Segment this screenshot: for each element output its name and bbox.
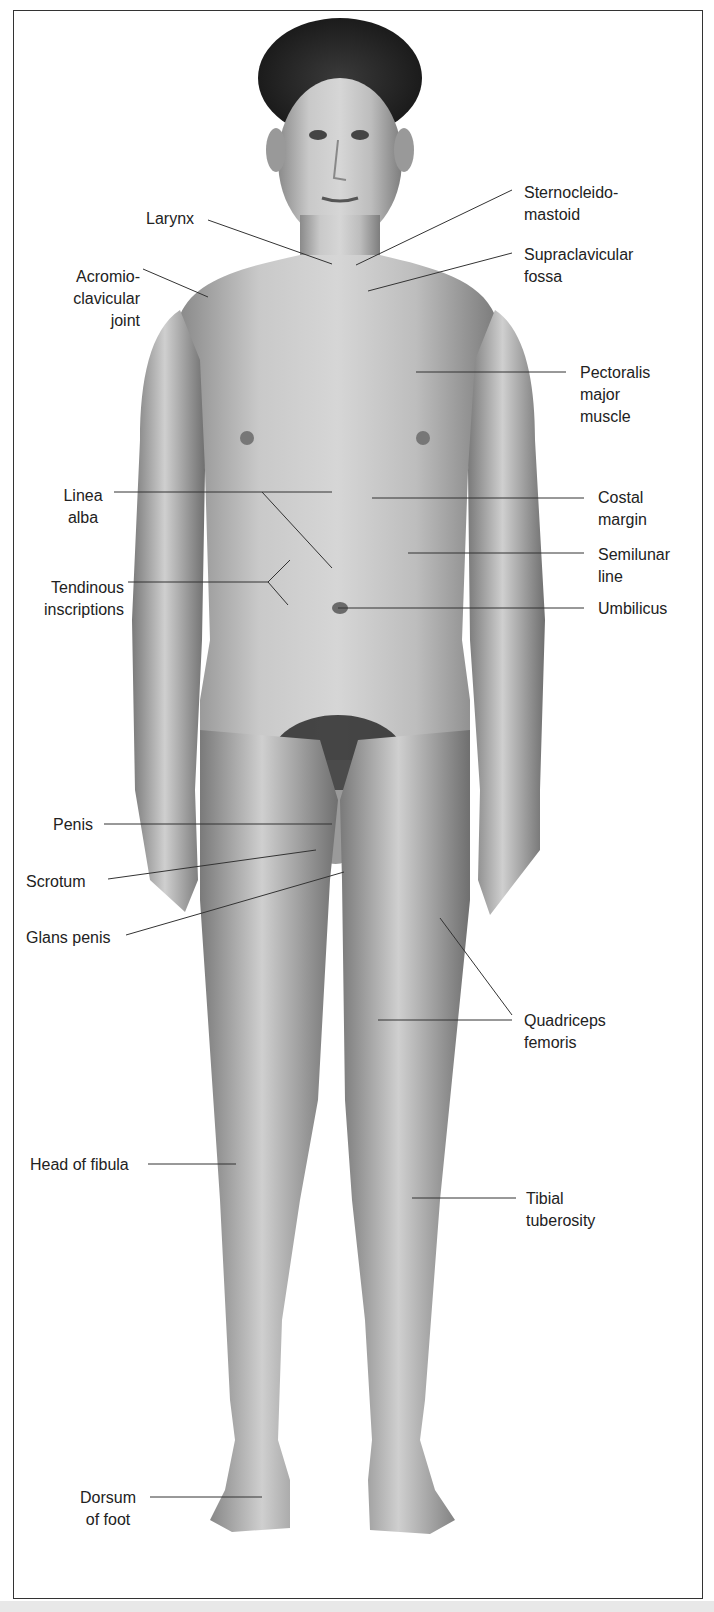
label-penis: Penis: [53, 814, 93, 836]
label-costal-margin: Costal margin: [598, 487, 647, 531]
neck: [300, 215, 380, 262]
label-acromioclavicular-joint: Acromio- clavicular joint: [46, 266, 140, 332]
head: [258, 18, 422, 242]
right-nipple: [240, 431, 254, 445]
label-dorsum-of-foot: Dorsum of foot: [70, 1487, 146, 1531]
label-umbilicus: Umbilicus: [598, 598, 667, 620]
torso: [180, 255, 495, 760]
label-glans-penis: Glans penis: [26, 927, 111, 949]
label-sternocleidomastoid: Sternocleido- mastoid: [524, 182, 618, 226]
left-nipple: [416, 431, 430, 445]
right-ear: [394, 128, 414, 172]
label-pectoralis-major: Pectoralis major muscle: [580, 362, 650, 428]
label-head-of-fibula: Head of fibula: [30, 1154, 129, 1176]
body-illustration: [0, 0, 714, 1612]
label-linea-alba: Linea alba: [58, 485, 108, 529]
label-supraclavicular-fossa: Supraclavicular fossa: [524, 244, 633, 288]
right-arm: [132, 310, 205, 912]
label-tendinous-inscriptions: Tendinous inscriptions: [18, 577, 124, 621]
left-arm: [468, 310, 545, 915]
right-leg: [200, 730, 338, 1532]
label-quadriceps-femoris: Quadriceps femoris: [524, 1010, 606, 1054]
label-scrotum: Scrotum: [26, 871, 86, 893]
label-semilunar-line: Semilunar line: [598, 544, 670, 588]
leader-acromioclavicular-joint: [143, 269, 208, 297]
right-eye: [351, 130, 369, 140]
label-larynx: Larynx: [146, 208, 194, 230]
left-ear: [266, 128, 286, 172]
label-tibial-tuberosity: Tibial tuberosity: [526, 1188, 595, 1232]
left-eye: [309, 130, 327, 140]
left-leg: [340, 730, 470, 1534]
